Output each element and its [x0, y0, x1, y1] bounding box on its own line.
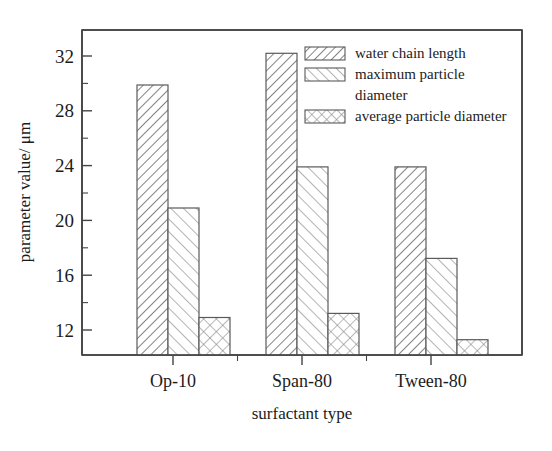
bar-maximum-particle-diameter [426, 258, 457, 355]
bar-maximum-particle-diameter [297, 167, 328, 355]
x-tick-label: Tween-80 [395, 371, 467, 391]
legend-swatch-water-chain-length [305, 47, 345, 60]
y-tick-label: 28 [55, 100, 74, 121]
bar-water-chain-length [266, 53, 297, 355]
y-tick-label: 20 [55, 210, 74, 231]
bar-average-particle-diameter [199, 318, 230, 356]
x-tick-label: Op-10 [150, 371, 196, 391]
y-tick-label: 24 [55, 155, 75, 176]
legend-label-average-particle-diameter: average particle diameter [355, 108, 507, 124]
x-tick-label: Span-80 [272, 371, 332, 391]
bar-water-chain-length [137, 85, 168, 355]
y-tick-label: 32 [55, 46, 74, 67]
bar-average-particle-diameter [328, 313, 359, 355]
bar-average-particle-diameter [457, 340, 488, 355]
legend-label-water-chain-length: water chain length [355, 45, 466, 61]
y-axis-title: parameter value/ μm [15, 122, 34, 262]
legend-label-maximum-particle-diameter: maximum particle [355, 66, 465, 82]
legend-swatch-average-particle-diameter [305, 110, 345, 123]
bar-maximum-particle-diameter [168, 208, 199, 355]
bar-water-chain-length [395, 167, 426, 355]
x-axis-title: surfactant type [252, 404, 353, 423]
legend-label-maximum-particle-diameter-line2: diameter [355, 87, 407, 103]
y-tick-label: 16 [55, 265, 74, 286]
chart-figure: 32 28 24 20 16 12 Op-10 Span-80 Tween-80 [0, 0, 552, 451]
bar-chart-svg: 32 28 24 20 16 12 Op-10 Span-80 Tween-80 [0, 0, 552, 451]
y-tick-label: 12 [55, 320, 74, 341]
legend-swatch-maximum-particle-diameter [305, 68, 345, 81]
